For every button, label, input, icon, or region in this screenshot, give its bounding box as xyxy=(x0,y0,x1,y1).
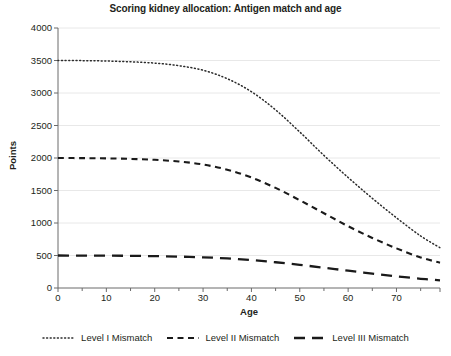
series-line-3 xyxy=(58,256,440,281)
legend-swatch-dashed xyxy=(166,333,200,343)
legend-item-1[interactable]: Level I Mismatch xyxy=(42,332,152,343)
plot-canvas xyxy=(0,0,451,356)
axis-tick-marks xyxy=(54,28,440,292)
series-line-1 xyxy=(58,61,440,248)
grid-lines xyxy=(58,28,440,256)
legend-label: Level II Mismatch xyxy=(205,332,279,343)
legend-swatch-long-dashed xyxy=(293,333,327,343)
chart-figure: Scoring kidney allocation: Antigen match… xyxy=(0,0,451,356)
legend-label: Level I Mismatch xyxy=(81,332,152,343)
series-line-2 xyxy=(58,158,440,263)
chart-legend: Level I MismatchLevel II MismatchLevel I… xyxy=(0,332,451,343)
legend-label: Level III Mismatch xyxy=(332,332,409,343)
legend-swatch-dotted xyxy=(42,333,76,343)
legend-item-3[interactable]: Level III Mismatch xyxy=(293,332,409,343)
legend-item-2[interactable]: Level II Mismatch xyxy=(166,332,279,343)
